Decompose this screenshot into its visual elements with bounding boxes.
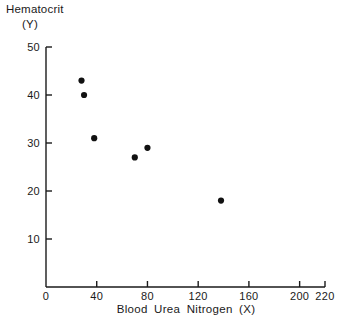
y-tick-label: 20	[12, 185, 40, 197]
data-point	[144, 145, 150, 151]
y-tick-label: 10	[12, 233, 40, 245]
data-point	[91, 135, 97, 141]
x-tick-label: 220	[315, 290, 334, 302]
data-point	[81, 92, 87, 98]
x-tick-label: 0	[43, 290, 49, 302]
data-point	[132, 154, 138, 160]
x-axis-title: Blood Urea Nitrogen (X)	[46, 303, 326, 315]
y-tick-label: 30	[12, 137, 40, 149]
scatter-plot-figure: Hematocrit (Y) 1020304050 04080120160200…	[0, 0, 341, 325]
x-tick-label: 160	[239, 290, 258, 302]
data-point	[78, 78, 84, 84]
y-tick-label: 40	[12, 89, 40, 101]
y-tick-label: 50	[12, 41, 40, 53]
x-tick-label: 120	[189, 290, 208, 302]
axis-lines	[46, 47, 325, 287]
data-point	[218, 198, 224, 204]
tick-marks	[46, 47, 325, 287]
x-tick-label: 80	[141, 290, 154, 302]
x-tick-label: 40	[90, 290, 103, 302]
x-tick-label: 200	[290, 290, 309, 302]
data-points-group	[78, 78, 224, 204]
plot-axes	[0, 0, 341, 325]
